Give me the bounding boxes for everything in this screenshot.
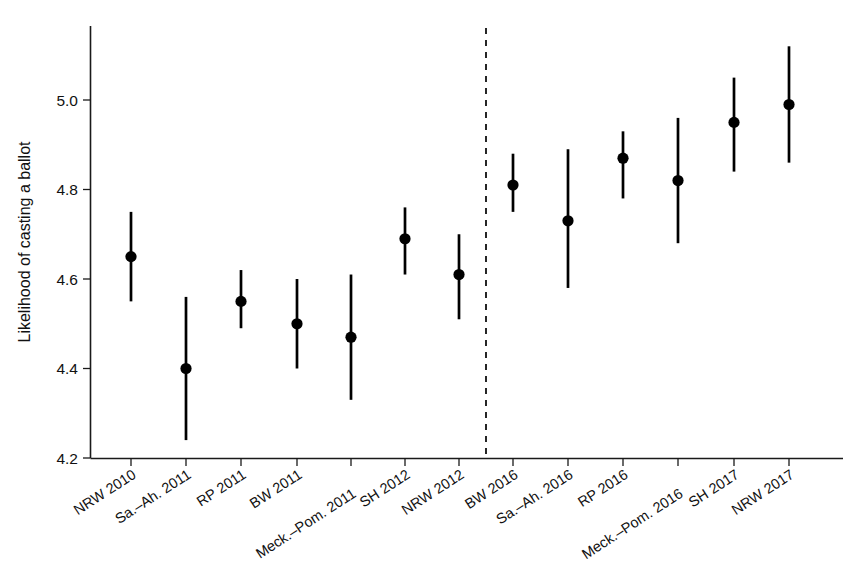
data-point-1	[180, 363, 191, 374]
y-tick-label: 4.6	[56, 271, 78, 288]
data-point-8	[562, 215, 573, 226]
y-axis-ticks: 4.24.44.64.85.0	[56, 92, 90, 467]
y-tick-label: 4.4	[56, 360, 78, 377]
data-point-3	[291, 318, 302, 329]
x-axis-category-labels: NRW 2010Sa.–Ah. 2011RP 2011BW 2011Meck.–…	[71, 466, 797, 562]
y-axis-title: Likelihood of casting a ballot	[16, 141, 33, 343]
y-tick-label: 4.8	[56, 181, 78, 198]
x-axis-label-9: RP 2016	[575, 466, 631, 510]
data-point-11	[728, 117, 739, 128]
data-point-12	[783, 99, 794, 110]
data-point-5	[399, 233, 410, 244]
x-axis-ticks	[131, 459, 789, 467]
y-tick-label: 4.2	[56, 450, 78, 467]
dot-and-whisker-plot: 4.24.44.64.85.0 NRW 2010Sa.–Ah. 2011RP 2…	[0, 0, 855, 583]
data-point-7	[507, 179, 518, 190]
y-tick-label: 5.0	[56, 92, 78, 109]
x-axis-label-2: RP 2011	[194, 466, 249, 509]
data-point-0	[125, 251, 136, 262]
x-axis-label-3: BW 2011	[247, 466, 305, 511]
data-point-4	[345, 332, 356, 343]
data-point-6	[453, 269, 464, 280]
data-point-2	[235, 296, 246, 307]
chart-figure: 4.24.44.64.85.0 NRW 2010Sa.–Ah. 2011RP 2…	[0, 0, 855, 583]
x-axis-label-12: NRW 2017	[729, 466, 797, 518]
data-point-9	[617, 153, 628, 164]
error-bars	[131, 46, 789, 440]
data-point-10	[672, 175, 683, 186]
